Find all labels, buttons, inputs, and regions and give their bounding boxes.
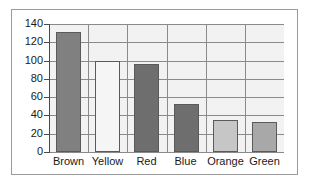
y-tick-120 [44,42,49,43]
x-tick-label-yellow: Yellow [88,155,127,168]
y-tick-140 [44,24,49,25]
y-axis-labels: 140 120 100 80 60 40 20 0 [12,10,43,174]
bar-blue [174,104,199,152]
bar-green [252,122,277,152]
gridline-0 [49,152,284,153]
x-tick-label-blue: Blue [166,155,205,168]
bar-yellow [95,61,120,152]
category-separator-3 [167,24,168,152]
y-tick-label-140: 140 [25,18,43,29]
bar-orange [213,120,238,152]
y-tick-label-120: 120 [25,36,43,47]
x-tick-label-brown: Brown [49,155,88,168]
y-tick-label-80: 80 [31,73,43,84]
plot-area [49,24,284,152]
x-axis-labels: Brown Yellow Red Blue Orange Green [49,155,284,173]
x-tick-label-orange: Orange [206,155,245,168]
y-tick-80 [44,79,49,80]
y-axis-spine [49,24,50,153]
y-tick-label-0: 0 [37,146,43,157]
category-separator-1 [88,24,89,152]
bar-brown [56,32,81,152]
y-tick-label-100: 100 [25,55,43,66]
x-tick-label-green: Green [245,155,284,168]
x-tick-label-red: Red [127,155,166,168]
category-separator-2 [127,24,128,152]
y-tick-40 [44,115,49,116]
y-tick-label-20: 20 [31,128,43,139]
y-tick-0 [44,152,49,153]
y-tick-label-60: 60 [31,91,43,102]
bar-red [134,64,159,152]
y-tick-20 [44,134,49,135]
y-tick-label-40: 40 [31,109,43,120]
y-tick-100 [44,61,49,62]
chart-figure: 140 120 100 80 60 40 20 0 Brown Yellow R… [11,9,298,175]
category-separator-4 [206,24,207,152]
y-tick-60 [44,97,49,98]
category-separator-5 [245,24,246,152]
